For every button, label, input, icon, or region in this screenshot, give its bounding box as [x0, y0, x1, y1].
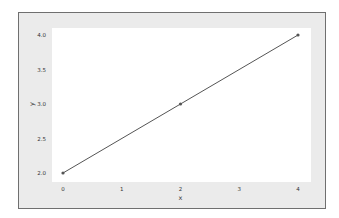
y-tick-label: 2.5 [37, 136, 46, 142]
y-tick-label: 2.0 [37, 170, 46, 176]
x-tick-label: 0 [61, 186, 65, 192]
x-axis-ticks: 0 1 2 3 4 [61, 186, 300, 192]
y-tick-label: 3.5 [37, 67, 46, 73]
line-chart: 2.0 2.5 3.0 3.5 4.0 0 1 2 3 4 x y [0, 0, 339, 218]
x-tick-label: 2 [179, 186, 183, 192]
data-point-marker [61, 171, 64, 174]
y-tick-label: 4.0 [37, 32, 46, 38]
y-tick-label: 3.0 [37, 101, 46, 107]
x-tick-label: 4 [296, 186, 300, 192]
x-tick-label: 3 [238, 186, 242, 192]
data-point-marker [296, 33, 299, 36]
data-point-marker [179, 102, 182, 105]
y-axis-ticks: 2.0 2.5 3.0 3.5 4.0 [37, 32, 46, 176]
y-axis-label: y [28, 102, 36, 106]
chart-canvas: 2.0 2.5 3.0 3.5 4.0 0 1 2 3 4 x y [0, 0, 339, 218]
x-axis-label: x [179, 194, 183, 202]
x-tick-label: 1 [120, 186, 124, 192]
